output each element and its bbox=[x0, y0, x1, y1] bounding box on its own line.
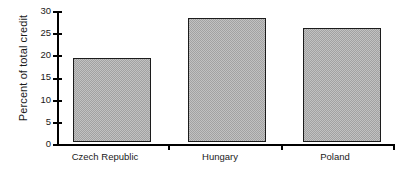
y-axis-title: Percent of total credit bbox=[17, 3, 29, 133]
bar-poland bbox=[303, 28, 381, 142]
y-tick-label: 25 bbox=[29, 28, 51, 38]
y-axis-tick bbox=[53, 11, 62, 13]
x-tick-label-poland: Poland bbox=[283, 151, 387, 162]
y-axis-tick bbox=[53, 55, 62, 57]
y-axis-tick bbox=[53, 122, 62, 124]
y-tick-label: 0 bbox=[29, 139, 51, 149]
y-tick-label: 15 bbox=[29, 72, 51, 82]
x-axis-tick bbox=[168, 144, 170, 150]
y-axis-tick bbox=[53, 144, 62, 146]
x-tick-label-hungary: Hungary bbox=[168, 151, 272, 162]
bar-chart-figure: Percent of total credit 30 25 20 15 10 5… bbox=[0, 0, 414, 171]
y-tick-label: 5 bbox=[29, 117, 51, 127]
x-axis-tick bbox=[393, 144, 395, 150]
y-axis-tick bbox=[53, 78, 62, 80]
y-tick-label: 10 bbox=[29, 95, 51, 105]
x-tick-label-czech-republic: Czech Republic bbox=[53, 151, 157, 162]
bar-hungary bbox=[188, 18, 266, 142]
y-tick-label: 30 bbox=[29, 6, 51, 16]
y-tick-label: 20 bbox=[29, 50, 51, 60]
bar-czech-republic bbox=[73, 58, 151, 142]
x-axis-tick bbox=[281, 144, 283, 150]
x-axis-line bbox=[57, 144, 394, 146]
y-axis-tick bbox=[53, 33, 62, 35]
y-axis-tick bbox=[53, 100, 62, 102]
plot-area bbox=[57, 11, 394, 144]
